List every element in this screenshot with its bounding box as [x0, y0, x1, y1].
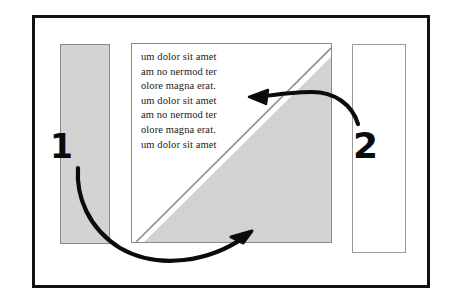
center-content-box: um dolor sit amet am no nermod ter olore… — [131, 43, 332, 243]
callout-marker-2: 2 — [353, 128, 378, 164]
text-line: am no nermod ter — [141, 65, 271, 80]
text-line: olore magna erat. — [141, 123, 271, 138]
text-line: um dolor sit amet — [141, 94, 271, 109]
text-line: um dolor sit amet — [141, 138, 271, 153]
paragraph-text-block: um dolor sit amet am no nermod ter olore… — [141, 50, 271, 152]
text-line: am no nermod ter — [141, 108, 271, 123]
diagram-canvas: um dolor sit amet am no nermod ter olore… — [0, 0, 456, 305]
text-line: olore magna erat. — [141, 79, 271, 94]
text-line: um dolor sit amet — [141, 50, 271, 65]
callout-marker-1: 1 — [50, 130, 73, 163]
